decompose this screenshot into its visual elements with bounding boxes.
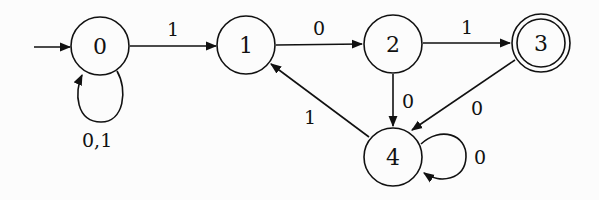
state-label-0: 0: [93, 34, 107, 59]
edge-4-1: [271, 64, 369, 137]
state-3-accepting: 3: [512, 14, 570, 72]
edge-label-3-4: 0: [471, 97, 483, 119]
state-2: 2: [364, 15, 422, 73]
state-label-2: 2: [386, 32, 400, 57]
edge-label-2-3: 1: [461, 16, 473, 38]
edge-4-4: [421, 134, 466, 179]
state-4: 4: [364, 128, 422, 186]
state-label-1: 1: [239, 33, 253, 58]
edge-label-0-0: 0,1: [82, 129, 112, 151]
state-1: 1: [217, 16, 275, 74]
automaton-diagram: 0,1 1 0 1 0 0 1 0 0 1 2 3 4: [0, 0, 599, 200]
edge-label-4-4: 0: [474, 146, 486, 168]
state-label-4: 4: [386, 145, 400, 170]
edge-label-1-2: 0: [313, 17, 325, 39]
edge-label-4-1: 1: [304, 106, 316, 128]
edge-3-4: [412, 60, 515, 130]
edge-0-0: [78, 71, 123, 122]
edge-label-2-4: 0: [402, 90, 414, 112]
edge-label-0-1: 1: [167, 18, 179, 40]
edge-1-2: [276, 44, 362, 45]
state-0: 0: [71, 17, 129, 75]
state-label-3: 3: [534, 31, 548, 56]
